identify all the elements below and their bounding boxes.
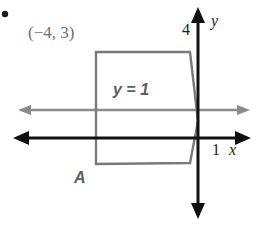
polygon-shape-a xyxy=(96,52,198,164)
y-axis-tick-label: 4 xyxy=(182,22,190,38)
polygon-name-label: A xyxy=(74,170,86,186)
x-axis-name-label: x xyxy=(229,142,236,158)
vertex-coordinate-label: (−4, 3) xyxy=(28,24,74,41)
y-axis-arrow-bottom xyxy=(191,203,205,219)
x-axis-arrow-right xyxy=(235,131,251,145)
coordinate-plane-figure: (−4, 3) 4 y 1 x y = 1 A xyxy=(0,0,260,227)
y-axis-name-label: y xyxy=(211,13,218,29)
line-y-equals-1-arrow-left xyxy=(18,105,31,115)
line-y-equals-1-arrow-right xyxy=(237,105,250,115)
x-axis-arrow-left xyxy=(13,131,29,145)
bullet-point-marker xyxy=(2,11,8,17)
y-axis-arrow-top xyxy=(191,7,205,23)
line-equation-label: y = 1 xyxy=(113,82,149,98)
y-axis xyxy=(191,7,205,219)
line-y-equals-1 xyxy=(18,105,250,115)
x-axis-tick-label: 1 xyxy=(212,142,220,158)
